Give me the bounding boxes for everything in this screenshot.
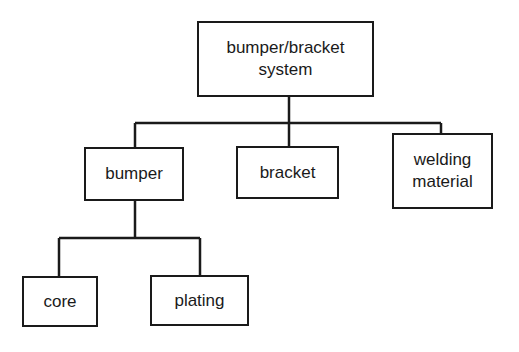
node-core: core [22,276,98,327]
node-label: bumper/bracket system [226,37,344,81]
node-plating: plating [150,275,249,326]
node-label: bracket [260,162,316,184]
node-label: core [43,291,76,313]
node-bracket: bracket [236,146,339,199]
node-welding-material: welding material [392,133,493,209]
node-bumper: bumper [84,147,184,201]
node-label: plating [174,290,224,312]
node-bumper-bracket-system: bumper/bracket system [197,21,374,97]
node-label: welding material [412,149,472,193]
node-label: bumper [105,163,163,185]
